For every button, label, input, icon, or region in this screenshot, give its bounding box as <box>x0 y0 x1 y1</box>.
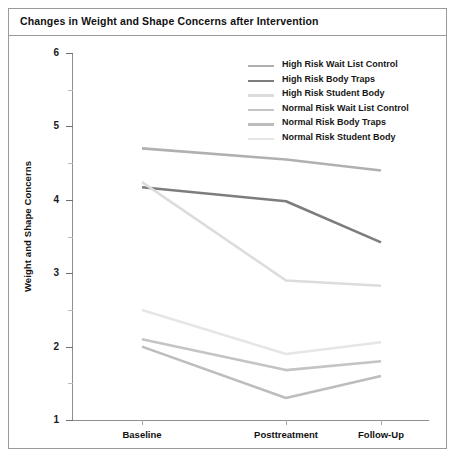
series-line <box>142 339 381 370</box>
chart-title: Changes in Weight and Shape Concerns aft… <box>20 15 319 27</box>
legend-label: High Risk Student Body <box>282 88 385 98</box>
legend-label: Normal Risk Wait List Control <box>282 103 409 113</box>
series-line <box>142 347 381 398</box>
legend-label: Normal Risk Student Body <box>282 132 396 142</box>
legend-swatch-icon <box>248 94 274 96</box>
legend-swatch-icon <box>248 65 274 67</box>
legend-swatch-icon <box>248 109 274 111</box>
figure-panel: Changes in Weight and Shape Concerns aft… <box>8 8 447 449</box>
series-line <box>142 148 381 170</box>
legend-swatch-icon <box>248 80 274 82</box>
legend-label: High Risk Wait List Control <box>282 59 398 69</box>
plot-area: 654321 BaselinePosttreatmentFollow-Up We… <box>9 36 448 450</box>
legend-label: Normal Risk Body Traps <box>282 117 386 127</box>
legend-swatch-icon <box>248 138 274 140</box>
legend-swatch-icon <box>248 123 274 125</box>
figure-title-bar: Changes in Weight and Shape Concerns aft… <box>9 9 446 36</box>
legend-label: High Risk Body Traps <box>282 74 375 84</box>
series-line <box>142 187 381 242</box>
